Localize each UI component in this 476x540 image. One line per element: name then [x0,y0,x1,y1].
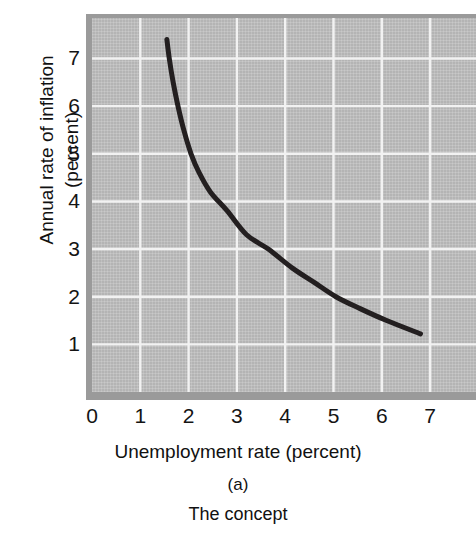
x-axis-tick-label: 6 [367,404,397,428]
y-axis-tick-label: 5 [54,143,80,164]
x-axis-tick-labels: 01234567 [0,404,476,434]
x-axis-title: Unemployment rate (percent) [0,440,476,464]
panel-identifier: (a) [0,474,476,496]
x-axis-tick-label: 0 [77,404,107,428]
y-axis-tick-label: 1 [54,333,80,354]
x-axis-tick-label: 5 [319,404,349,428]
y-axis-tick-labels: 1234567 [50,0,80,400]
x-axis-tick-label: 2 [174,404,204,428]
panel-caption: The concept [0,503,476,526]
phillips-curve-figure: Annual rate of inflation (percent) 12345… [0,0,476,540]
y-axis-tick-label: 7 [54,47,80,68]
x-axis-tick-label: 4 [270,404,300,428]
phillips-curve-line [92,18,476,392]
y-axis-tick-label: 2 [54,286,80,307]
y-axis-tick-label: 6 [54,95,80,116]
x-axis-tick-label: 1 [125,404,155,428]
y-axis-tick-label: 4 [54,190,80,211]
plot-area [92,18,476,392]
x-axis-tick-label: 3 [222,404,252,428]
plot-frame [86,14,476,400]
y-axis-tick-label: 3 [54,238,80,259]
x-axis-tick-label: 7 [415,404,445,428]
